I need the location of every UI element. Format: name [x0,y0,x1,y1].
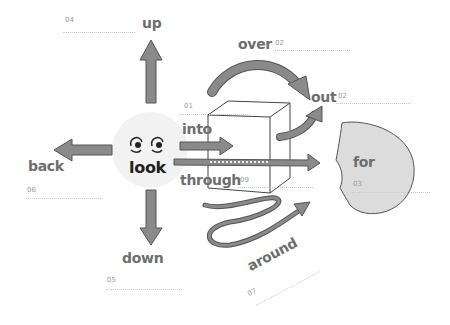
label-into: into [182,121,212,137]
center-word-look: look [129,158,166,177]
label-back: back [28,158,64,174]
answer-line-down[interactable] [106,289,182,290]
down-arrow-icon [140,190,162,245]
label-up: up [142,15,161,31]
label-out: out [311,89,336,105]
label-over: over [238,36,272,52]
label-number-back: 06 [27,186,36,194]
label-number-into: 01 [184,102,193,110]
label-for: for [353,154,375,170]
up-arrow-icon [140,40,162,103]
through-arrow-icon [174,154,320,171]
label-number-up: 04 [65,16,74,24]
label-number-over: 02 [275,39,284,47]
label-number-down: 05 [107,276,116,284]
answer-line-over[interactable] [275,50,350,51]
into-arrow-icon [180,137,233,155]
over-arrow-icon [212,65,310,100]
for-blob-shape [336,122,414,214]
answer-line-up[interactable] [63,32,135,33]
answer-line-back[interactable] [26,198,101,199]
label-down: down [122,250,163,266]
answer-line-out[interactable] [336,103,411,104]
out-arrow-icon [280,106,322,137]
answer-line-through[interactable] [238,187,313,188]
label-number-out: 02 [338,92,347,100]
label-number-through: 09 [240,176,249,184]
label-through: through [180,172,241,188]
label-number-for: 03 [353,180,362,188]
diagram-canvas [0,0,450,325]
answer-line-for[interactable] [352,192,430,193]
answer-line-into[interactable] [180,114,250,115]
